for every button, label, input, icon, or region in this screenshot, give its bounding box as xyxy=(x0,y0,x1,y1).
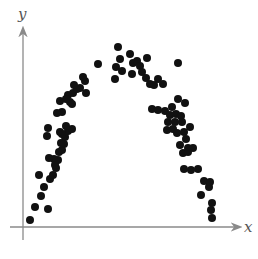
data-point xyxy=(31,203,39,211)
data-point xyxy=(68,100,76,108)
data-point xyxy=(53,109,61,117)
data-point xyxy=(159,80,167,88)
data-point xyxy=(70,81,78,89)
data-point xyxy=(187,166,195,174)
data-point xyxy=(118,67,126,75)
data-point xyxy=(143,54,151,62)
data-point xyxy=(40,183,48,191)
data-point xyxy=(163,126,171,134)
data-point xyxy=(51,161,59,169)
data-point xyxy=(150,81,158,89)
data-point xyxy=(62,122,70,130)
data-point xyxy=(116,55,124,63)
x-axis-label: x xyxy=(244,218,253,236)
data-point xyxy=(182,135,190,143)
data-point xyxy=(45,154,53,162)
data-point xyxy=(44,124,52,132)
data-point xyxy=(207,206,215,214)
data-point xyxy=(168,103,176,111)
data-points xyxy=(26,43,216,224)
data-point xyxy=(60,140,68,148)
data-point xyxy=(114,43,122,51)
data-point xyxy=(94,60,102,68)
data-point xyxy=(206,178,214,186)
data-point xyxy=(174,95,182,103)
data-point xyxy=(181,99,189,107)
data-point xyxy=(186,123,194,131)
data-point xyxy=(178,118,186,126)
data-point xyxy=(184,148,192,156)
scatter-chart: y x xyxy=(0,0,258,259)
data-point xyxy=(164,118,172,126)
data-point xyxy=(43,132,51,140)
y-axis-label: y xyxy=(17,5,27,23)
data-point xyxy=(208,199,216,207)
data-point xyxy=(111,75,119,83)
data-point xyxy=(154,106,162,114)
data-point xyxy=(82,89,90,97)
data-point xyxy=(208,214,216,222)
data-point xyxy=(128,70,136,78)
data-point xyxy=(180,165,188,173)
data-point xyxy=(197,191,205,199)
data-point xyxy=(26,216,34,224)
data-point xyxy=(171,118,179,126)
data-point xyxy=(37,192,45,200)
data-point xyxy=(44,205,52,213)
data-point xyxy=(49,171,57,179)
data-point xyxy=(176,141,184,149)
data-point xyxy=(173,129,181,137)
data-point xyxy=(194,165,202,173)
data-point xyxy=(174,59,182,67)
data-point xyxy=(126,50,134,58)
data-point xyxy=(35,171,43,179)
data-point xyxy=(79,73,87,81)
data-point xyxy=(58,130,66,138)
